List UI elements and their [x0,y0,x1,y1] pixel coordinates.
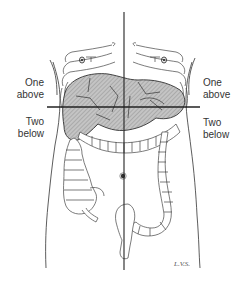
artist-signature: L.V.S. [174,260,190,268]
label-left-lower-line1: Two [2,116,44,128]
label-right-upper-line2: above [203,89,243,101]
label-left-lower-line2: below [2,128,44,140]
label-left-upper-line2: above [2,89,44,101]
label-left-upper-line1: One [2,77,44,89]
label-left-lower: Two below [2,116,44,140]
label-left-upper: One above [2,77,44,101]
label-right-lower-line1: Two [203,117,243,129]
label-right-upper: One above [203,77,243,101]
umbilicus [120,173,126,179]
abdomen-diagram [0,0,243,285]
label-right-upper-line1: One [203,77,243,89]
label-right-lower-line2: below [203,129,243,141]
ascending-colon [64,138,105,222]
label-right-lower: Two below [203,117,243,141]
